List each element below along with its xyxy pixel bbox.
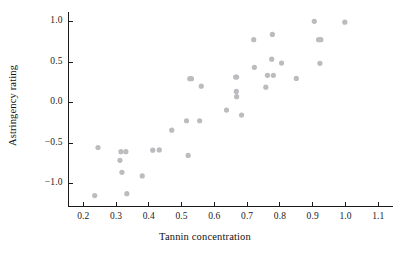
data-point — [186, 153, 191, 158]
scatter-plot-figure: 0.20.30.40.50.60.70.80.91.01.1−1.0−0.50.… — [0, 0, 410, 253]
y-tick-label: 0.0 — [23, 96, 63, 106]
data-point — [118, 149, 123, 154]
data-point — [294, 76, 299, 81]
data-point — [184, 118, 189, 123]
x-axis-label: Tannin concentration — [0, 231, 410, 242]
data-point — [269, 57, 274, 62]
data-point — [157, 147, 162, 152]
data-point — [234, 89, 239, 94]
data-point — [263, 85, 268, 90]
data-point — [270, 32, 275, 37]
y-axis-label-container: Astringency rating — [2, 0, 24, 210]
data-point — [224, 107, 229, 112]
data-point — [317, 61, 322, 66]
data-point — [312, 19, 317, 24]
data-point — [150, 148, 155, 153]
y-tick-label: −0.5 — [23, 137, 63, 147]
data-point — [95, 145, 100, 150]
y-axis-label: Astringency rating — [8, 64, 19, 145]
data-point — [189, 76, 194, 81]
data-point — [123, 149, 128, 154]
y-tick-label: −1.0 — [23, 177, 63, 187]
data-point — [234, 74, 239, 79]
data-point — [117, 158, 122, 163]
data-point — [271, 73, 276, 78]
data-point — [279, 60, 284, 65]
x-tick-label: 1.1 — [358, 211, 398, 221]
data-point — [234, 94, 239, 99]
data-point — [92, 193, 97, 198]
data-point — [342, 20, 347, 25]
data-point — [140, 173, 145, 178]
data-point — [239, 112, 244, 117]
plot-area: 0.20.30.40.50.60.70.80.91.01.1−1.0−0.50.… — [0, 0, 410, 253]
data-point — [318, 37, 323, 42]
y-tick-label: 0.5 — [23, 56, 63, 66]
data-point — [169, 128, 174, 133]
data-point — [124, 191, 129, 196]
data-point — [197, 118, 202, 123]
data-point — [265, 73, 270, 78]
data-point — [251, 37, 256, 42]
data-point — [252, 65, 257, 70]
data-point — [119, 170, 124, 175]
data-point — [199, 84, 204, 89]
y-tick-label: 1.0 — [23, 15, 63, 25]
